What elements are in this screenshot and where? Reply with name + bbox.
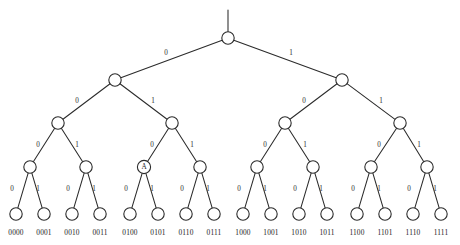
tree-node	[336, 74, 348, 86]
edge-label-1: 1	[263, 185, 267, 193]
edge-label-0: 0	[10, 185, 14, 193]
tree-node	[365, 161, 377, 173]
tree-leaf-node	[152, 208, 164, 220]
node-inner-label: A	[141, 163, 147, 171]
leaf-codeword-label: 1001	[263, 228, 279, 237]
tree-leaf-node-circle	[321, 208, 333, 220]
tree-node	[394, 117, 406, 129]
leaf-codeword-label: 1000	[235, 228, 251, 237]
tree-node-circle	[336, 74, 348, 86]
edge-label-0: 0	[164, 49, 168, 57]
tree-node-circle	[109, 74, 121, 86]
edge-label-1: 1	[303, 141, 307, 149]
edge-label-0: 0	[237, 185, 241, 193]
tree-leaf-node	[94, 208, 106, 220]
tree-leaf-node	[208, 208, 220, 220]
tree-leaf-node	[351, 208, 363, 220]
tree-edge	[290, 84, 337, 120]
edge-label-1: 1	[92, 185, 96, 193]
edge-label-0: 0	[351, 185, 355, 193]
leaf-codeword-label: 0000	[8, 228, 24, 237]
tree-leaf-node-circle	[180, 208, 192, 220]
tree-leaf-node-circle	[293, 208, 305, 220]
edge-label-1: 1	[319, 185, 323, 193]
tree-node	[194, 161, 206, 173]
edge-label-1: 1	[75, 141, 79, 149]
tree-node-circle	[307, 161, 319, 173]
edge-label-0: 0	[180, 185, 184, 193]
tree-leaf-node-circle	[351, 208, 363, 220]
tree-edge	[245, 173, 255, 208]
edge-label-1: 1	[190, 141, 194, 149]
edge-label-0: 0	[302, 97, 306, 105]
tree-node-root-circle	[222, 32, 234, 44]
edge-label-0: 0	[377, 141, 381, 149]
leaf-codeword-label: 0001	[36, 228, 52, 237]
tree-edge	[188, 173, 198, 208]
edge-label-1: 1	[433, 185, 437, 193]
edge-label-1: 1	[206, 185, 210, 193]
edge-label-0: 0	[75, 97, 79, 105]
leaf-codeword-label: 1111	[434, 228, 449, 237]
edge-label-1: 1	[377, 185, 381, 193]
tree-node-circle	[365, 161, 377, 173]
leaf-codeword-label: 0011	[92, 228, 107, 237]
leaf-codeword-label: 0101	[150, 228, 166, 237]
tree-node	[307, 161, 319, 173]
tree-node: A	[137, 160, 150, 173]
leaf-codeword-label: 1110	[406, 228, 421, 237]
edge-label-1: 1	[151, 97, 155, 105]
tree-edge	[132, 173, 142, 208]
tree-edge	[121, 40, 222, 78]
tree-edge	[301, 173, 311, 208]
tree-node-circle	[421, 161, 433, 173]
tree-leaf-node-circle	[152, 208, 164, 220]
edge-label-1: 1	[289, 49, 293, 57]
edge-label-0: 0	[293, 185, 297, 193]
leaf-codeword-label: 1101	[377, 228, 392, 237]
tree-node	[24, 161, 36, 173]
tree-node-circle	[24, 161, 36, 173]
tree-leaf-node	[265, 208, 277, 220]
tree-node	[52, 117, 64, 129]
tree-node	[279, 117, 291, 129]
leaf-codeword-label: 0100	[122, 228, 138, 237]
tree-leaf-node-circle	[66, 208, 78, 220]
edge-label-0: 0	[263, 141, 267, 149]
edge-label-1: 1	[417, 141, 421, 149]
tree-edge	[359, 173, 369, 208]
binary-tree-canvas: 010101010101010101010101010101 A 0000000…	[0, 0, 460, 245]
tree-leaf-node-circle	[10, 208, 22, 220]
tree-leaf-node-circle	[237, 208, 249, 220]
tree-edge	[347, 84, 395, 120]
tree-node-circle	[166, 117, 178, 129]
tree-leaf-node	[321, 208, 333, 220]
tree-leaf-node-circle	[208, 208, 220, 220]
edge-label-1: 1	[36, 185, 40, 193]
tree-leaf-node-circle	[38, 208, 50, 220]
edge-label-0: 0	[407, 185, 411, 193]
tree-edge	[18, 173, 28, 208]
tree-leaf-node-circle	[379, 208, 391, 220]
tree-leaf-node-circle	[407, 208, 419, 220]
edge-label-1: 1	[379, 97, 383, 105]
tree-edge	[74, 173, 84, 208]
leaf-codeword-label: 0010	[64, 228, 80, 237]
tree-leaf-node	[124, 208, 136, 220]
tree-leaf-node-circle	[94, 208, 106, 220]
tree-node-circle	[80, 161, 92, 173]
tree-edge	[61, 128, 82, 162]
tree-node	[109, 74, 121, 86]
tree-node-circle	[52, 117, 64, 129]
leaf-codeword-label: 1010	[291, 228, 307, 237]
tree-node-circle	[251, 161, 263, 173]
tree-leaf-node	[379, 208, 391, 220]
tree-node	[251, 161, 263, 173]
tree-edges-layer	[18, 40, 439, 208]
edge-label-1: 1	[150, 185, 154, 193]
tree-leaf-node	[10, 208, 22, 220]
tree-nodes-layer: A	[10, 32, 447, 220]
tree-node-root	[222, 32, 234, 44]
tree-edge	[120, 84, 167, 120]
tree-leaf-node	[237, 208, 249, 220]
